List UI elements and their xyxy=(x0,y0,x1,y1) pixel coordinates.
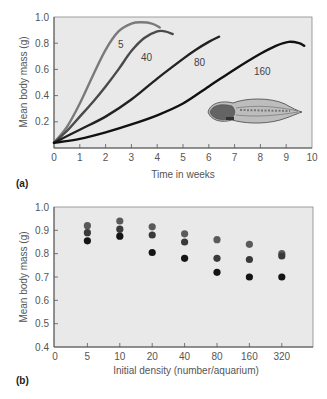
data-point-middle-160 xyxy=(246,256,253,263)
x-tick-label: 0 xyxy=(52,351,58,362)
y-tick-label: 0.8 xyxy=(35,248,49,259)
curve-label-160: 160 xyxy=(254,66,271,77)
x-tick-label: 320 xyxy=(273,351,290,362)
data-point-middle-5 xyxy=(84,229,91,236)
data-point-upper-40 xyxy=(181,230,188,237)
data-point-upper-80 xyxy=(213,236,220,243)
data-point-upper-10 xyxy=(116,217,123,224)
x-tick-label: 80 xyxy=(211,351,223,362)
data-point-lower-160 xyxy=(246,273,253,280)
chart-b-y-title: Mean body mass (g) xyxy=(18,231,29,322)
x-tick-label: 10 xyxy=(114,351,126,362)
data-point-lower-20 xyxy=(149,249,156,256)
y-tick-label: 0.5 xyxy=(35,318,49,329)
panel-label-b: (b) xyxy=(16,375,29,386)
curve-label-80: 80 xyxy=(194,57,206,68)
data-point-middle-320 xyxy=(278,252,285,259)
data-point-upper-20 xyxy=(149,223,156,230)
data-point-upper-160 xyxy=(246,241,253,248)
x-tick-label: 5 xyxy=(180,152,186,163)
y-tick-label: 0.6 xyxy=(35,64,49,75)
y-tick-label: 0.9 xyxy=(35,225,49,236)
chart-a: 012345678910 0.20.40.60.81.0 5 40 80 160… xyxy=(16,12,318,190)
y-tick-label: 0.2 xyxy=(35,116,49,127)
x-tick-label: 3 xyxy=(129,152,135,163)
chart-b: 0510204080160320 0.40.50.60.70.80.91.0 I… xyxy=(16,202,313,387)
curve-label-5: 5 xyxy=(118,39,124,50)
x-tick-label: 160 xyxy=(241,351,258,362)
y-tick-label: 0.4 xyxy=(35,90,49,101)
x-tick-label: 0 xyxy=(51,152,57,163)
data-point-middle-40 xyxy=(181,238,188,245)
figure: 012345678910 0.20.40.60.81.0 5 40 80 160… xyxy=(0,0,327,399)
x-tick-label: 20 xyxy=(147,351,159,362)
chart-a-y-title: Mean body mass (g) xyxy=(18,36,29,127)
x-tick-label: 40 xyxy=(179,351,191,362)
x-tick-label: 4 xyxy=(154,152,160,163)
x-tick-label: 10 xyxy=(306,152,318,163)
y-tick-label: 0.4 xyxy=(35,342,49,353)
chart-a-x-title: Time in weeks xyxy=(151,169,215,180)
data-point-lower-5 xyxy=(84,237,91,244)
x-tick-label: 6 xyxy=(206,152,212,163)
y-tick-label: 0.6 xyxy=(35,295,49,306)
x-tick-label: 8 xyxy=(258,152,264,163)
data-point-lower-10 xyxy=(116,233,123,240)
panel-label-a: (a) xyxy=(16,178,28,189)
y-tick-label: 1.0 xyxy=(35,202,49,213)
chart-a-plot-area xyxy=(54,17,312,148)
x-tick-label: 7 xyxy=(232,152,238,163)
x-tick-label: 5 xyxy=(85,351,91,362)
data-point-middle-10 xyxy=(116,226,123,233)
chart-b-x-title: Initial density (number/aquarium) xyxy=(113,365,259,376)
y-tick-label: 0.8 xyxy=(35,38,49,49)
x-tick-label: 1 xyxy=(77,152,83,163)
y-tick-label: 0.7 xyxy=(35,272,49,283)
chart-b-plot-area xyxy=(54,207,313,347)
x-tick-label: 9 xyxy=(283,152,289,163)
data-point-lower-320 xyxy=(278,273,285,280)
data-point-lower-80 xyxy=(213,269,220,276)
curve-label-40: 40 xyxy=(141,52,153,63)
data-point-upper-5 xyxy=(84,222,91,229)
data-point-lower-40 xyxy=(181,255,188,262)
y-tick-label: 1.0 xyxy=(35,12,49,23)
x-tick-label: 2 xyxy=(103,152,109,163)
data-point-middle-80 xyxy=(213,255,220,262)
data-point-middle-20 xyxy=(149,231,156,238)
